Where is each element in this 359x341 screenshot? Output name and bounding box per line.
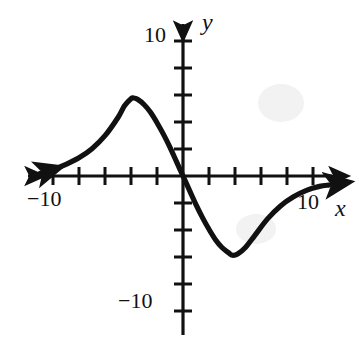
y-axis-tick-label-10: 10 [144,24,166,46]
y-axis-name: y [202,10,213,34]
x-axis-tick-label-minus-10: −10 [27,188,61,210]
coordinate-plane [0,0,359,341]
x-axis-name: x [335,196,346,220]
graph-figure: 10 −10 −10 10 y x [0,0,359,341]
x-axis-tick-label-10: 10 [297,191,319,213]
y-axis-tick-label-minus-10: −10 [118,290,152,312]
